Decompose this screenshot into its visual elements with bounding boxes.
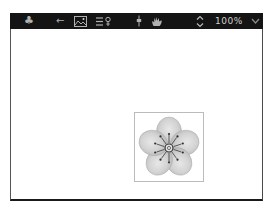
flower-image[interactable] — [134, 112, 204, 182]
dropdown-chevron-icon[interactable] — [251, 18, 260, 25]
zoom-level[interactable]: 100% — [215, 13, 243, 29]
app-window: ♣ ← 100% — [10, 13, 263, 201]
back-arrow-icon[interactable]: ← — [56, 13, 64, 29]
list-tool-icon[interactable] — [96, 16, 112, 27]
page: { "toolbar": { "zoom_level": "100%", "ic… — [0, 0, 270, 209]
toolbar: ♣ ← 100% — [10, 13, 263, 29]
club-icon[interactable]: ♣ — [24, 13, 34, 29]
zoom-stepper-icon[interactable] — [196, 15, 204, 28]
document-canvas[interactable] — [10, 29, 263, 201]
image-icon[interactable] — [74, 16, 87, 27]
hand-pan-icon[interactable] — [151, 15, 163, 27]
slider-icon[interactable] — [136, 15, 142, 27]
flower-blossom-graphic — [135, 113, 203, 181]
